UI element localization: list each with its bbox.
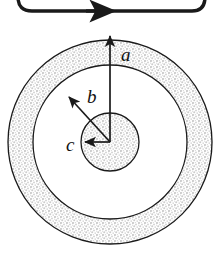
radius-label-a: a xyxy=(121,45,131,64)
radius-label-b: b xyxy=(87,87,97,106)
coaxial-cable-figure xyxy=(0,0,224,255)
current-loop-wire xyxy=(18,0,205,11)
current-loop xyxy=(18,0,205,11)
radius-label-c: c xyxy=(66,135,74,154)
